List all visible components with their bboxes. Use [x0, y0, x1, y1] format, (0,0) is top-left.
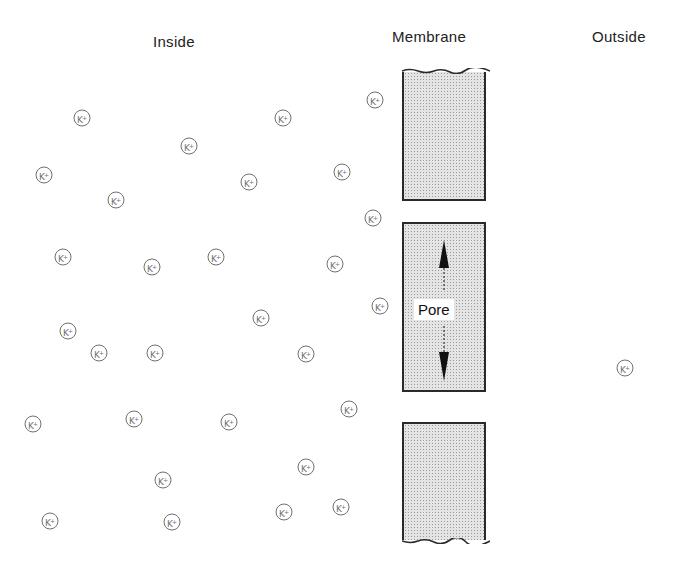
potassium-ion-inside: K+ [275, 110, 292, 127]
potassium-ion-inside: K+ [164, 514, 181, 531]
potassium-ion-inside: K+ [333, 499, 350, 516]
potassium-ion-inside: K+ [108, 192, 125, 209]
potassium-ion-inside: K+ [341, 401, 358, 418]
potassium-ion-inside: K+ [372, 298, 389, 315]
potassium-ion-inside: K+ [55, 249, 72, 266]
potassium-ion-inside: K+ [365, 210, 382, 227]
potassium-ion-inside: K+ [367, 92, 384, 109]
potassium-ion-inside: K+ [155, 472, 172, 489]
potassium-ion-inside: K+ [298, 459, 315, 476]
potassium-ion-inside: K+ [327, 256, 344, 273]
potassium-ion-inside: K+ [208, 249, 225, 266]
potassium-ion-inside: K+ [91, 345, 108, 362]
potassium-ion-inside: K+ [42, 513, 59, 530]
potassium-ion-inside: K+ [74, 110, 91, 127]
potassium-ion-inside: K+ [36, 167, 53, 184]
pore-label: Pore [414, 299, 454, 320]
potassium-ion-inside: K+ [60, 323, 77, 340]
potassium-ion-inside: K+ [147, 345, 164, 362]
potassium-ion-inside: K+ [253, 310, 270, 327]
potassium-ion-inside: K+ [221, 414, 238, 431]
potassium-ion-inside: K+ [126, 411, 143, 428]
potassium-ion-inside: K+ [241, 174, 258, 191]
potassium-ion-inside: K+ [276, 504, 293, 521]
potassium-ion-inside: K+ [298, 346, 315, 363]
potassium-ion-inside: K+ [334, 164, 351, 181]
potassium-ion-inside: K+ [144, 259, 161, 276]
potassium-ion-inside: K+ [25, 416, 42, 433]
potassium-ion-inside: K+ [181, 138, 198, 155]
pore-arrows [0, 0, 684, 565]
arrow-up-icon [439, 240, 449, 268]
arrow-down-icon [439, 352, 449, 381]
potassium-ion-outside: K+ [617, 360, 634, 377]
